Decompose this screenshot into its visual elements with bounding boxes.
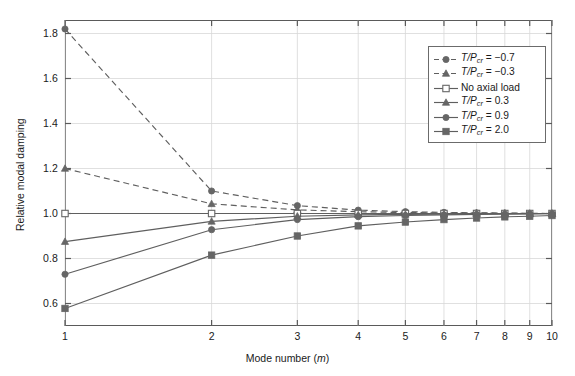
x-tick-label: 1 — [53, 330, 77, 342]
series-line — [65, 214, 552, 275]
data-point-square — [441, 216, 447, 222]
data-point-square — [527, 213, 533, 219]
x-axis-title: Mode number (m) — [0, 352, 575, 364]
x-axis-title-text: Mode number ( — [246, 352, 317, 364]
data-point-square-open — [62, 210, 68, 216]
legend-label: T/Pcr = −0.3 — [459, 66, 515, 79]
data-point-square — [62, 305, 68, 311]
series-line — [65, 216, 552, 309]
data-point-circle — [209, 188, 215, 194]
data-point-square — [473, 215, 479, 221]
x-tick-label: 5 — [393, 330, 417, 342]
x-tick-label: 6 — [432, 330, 456, 342]
data-point-circle — [443, 114, 449, 120]
legend-marker-triangle-filled-icon — [433, 66, 459, 79]
data-point-square — [402, 219, 408, 225]
data-point-circle — [443, 56, 449, 62]
x-axis-title-paren: ) — [326, 352, 330, 364]
legend-item: T/Pcr = 0.9 — [433, 109, 540, 124]
x-tick-label: 8 — [493, 330, 517, 342]
data-point-circle — [355, 214, 361, 220]
data-point-square — [294, 233, 300, 239]
y-axis-title: Relative modal damping — [14, 118, 26, 231]
y-tick-label: 1.6 — [18, 72, 58, 84]
data-point-triangle — [208, 200, 215, 207]
data-point-circle — [209, 227, 215, 233]
x-tick-label: 3 — [285, 330, 309, 342]
chart-container: 0.60.81.01.21.41.61.8 12345678910 Relati… — [0, 0, 575, 376]
legend-label: T/Pcr = 2.0 — [459, 124, 509, 137]
data-point-square-open — [443, 85, 449, 91]
x-tick-label: 2 — [200, 330, 224, 342]
data-point-square — [443, 129, 449, 135]
series-5 — [62, 212, 555, 311]
legend-label: No axial load — [459, 82, 520, 93]
data-point-square — [549, 212, 555, 218]
series-3 — [61, 210, 555, 245]
data-point-square — [208, 252, 214, 258]
legend-item: T/Pcr = 0.3 — [433, 95, 540, 110]
series-line — [65, 169, 552, 214]
data-point-circle — [294, 216, 300, 222]
x-tick-label: 7 — [465, 330, 489, 342]
data-point-square — [355, 223, 361, 229]
legend-item: T/Pcr = 2.0 — [433, 124, 540, 139]
legend-marker-square-open-icon — [433, 81, 459, 94]
series-1 — [61, 165, 555, 217]
series-4 — [62, 211, 555, 278]
x-tick-label: 10 — [540, 330, 564, 342]
y-tick-label: 0.6 — [18, 297, 58, 309]
legend-label: T/Pcr = 0.3 — [459, 95, 509, 108]
data-point-circle — [62, 26, 68, 32]
legend-marker-square-filled-icon — [433, 124, 459, 137]
y-tick-label: 0.8 — [18, 252, 58, 264]
data-point-circle — [402, 212, 408, 218]
legend-marker-circle-filled-icon — [433, 110, 459, 123]
y-tick-label: 1.8 — [18, 27, 58, 39]
legend-marker-triangle-filled-icon — [433, 95, 459, 108]
data-point-circle — [62, 271, 68, 277]
legend-label: T/Pcr = −0.7 — [459, 52, 515, 65]
data-point-square — [502, 214, 508, 220]
legend: T/Pcr = −0.7T/Pcr = −0.3No axial loadT/P… — [428, 46, 546, 143]
legend-item: T/Pcr = −0.7 — [433, 51, 540, 66]
x-tick-label: 9 — [518, 330, 542, 342]
legend-item: No axial load — [433, 80, 540, 95]
x-tick-label: 4 — [346, 330, 370, 342]
data-point-square-open — [208, 210, 214, 216]
x-axis-title-variable: m — [317, 352, 326, 364]
legend-item: T/Pcr = −0.3 — [433, 66, 540, 81]
legend-label: T/Pcr = 0.9 — [459, 110, 509, 123]
legend-marker-circle-filled-icon — [433, 52, 459, 65]
